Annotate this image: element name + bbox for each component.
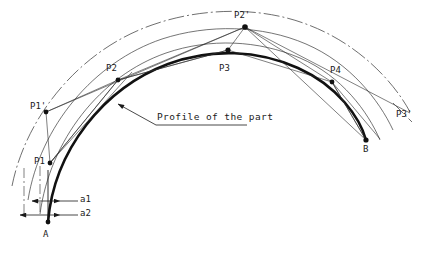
node-p1 [48,161,53,166]
offset-construction-arc [12,11,410,186]
part-profile-arc [48,53,366,222]
inner-thin-arc [40,43,380,214]
node-b [363,137,368,142]
label-p1: P1 [34,157,45,166]
label-p3: P3 [219,64,230,73]
projection-lines [46,27,380,163]
profile-note-text: Profile of the part [157,112,273,122]
diagram-canvas [0,0,428,253]
node-p4 [330,80,335,85]
node-p3 [225,47,230,52]
label-p4: P4 [330,66,341,75]
label-a: A [43,230,48,239]
label-p2: P2 [106,64,117,73]
label-p2-prime: P2' [234,11,250,20]
node-a [46,220,51,225]
node-p2 [116,78,121,83]
label-a1: a1 [80,195,91,204]
label-a2: a2 [80,209,91,218]
technical-drawing-figure: P1' P1 P2 P2' P3 P4 P3' a1 a2 A B Profil… [0,0,428,253]
label-b: B [363,145,368,154]
profile-chord-polyline [50,50,366,163]
node-p2-prime [242,24,248,30]
label-p1-prime: P1' [30,102,46,111]
label-p3-prime: P3' [396,110,412,119]
